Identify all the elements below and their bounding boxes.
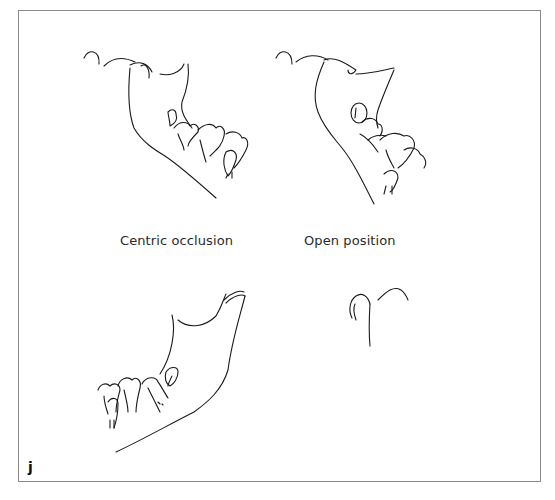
open-position-drawing <box>276 52 426 204</box>
dental-illustrations <box>0 0 555 500</box>
open-position-label: Open position <box>304 233 396 248</box>
panel-letter: j <box>28 459 33 475</box>
centric-occlusion-drawing <box>84 52 248 198</box>
condyle-drawing <box>350 288 408 346</box>
mandible-drawing <box>98 291 245 452</box>
centric-occlusion-label: Centric occlusion <box>120 233 233 248</box>
